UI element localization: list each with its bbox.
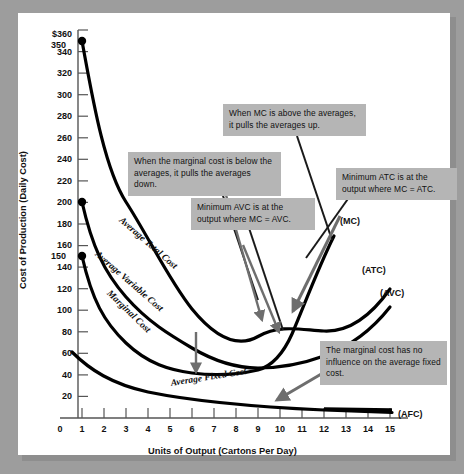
x-tick-label: 15 [380,424,400,434]
x-tick-label: 13 [336,424,356,434]
y-axis-title: Cost of Production (Daily Cost) [18,150,28,290]
y-tick-label: 340 [30,47,72,57]
y-tick-label: 240 [30,154,72,164]
callout-afc-no-influence: The marginal cost has no influence on th… [320,341,447,385]
y-tick-label: 320 [30,68,72,78]
x-tick-label: 0 [50,424,70,434]
x-tick-label: 1 [72,424,92,434]
series-tag-mc: (MC) [340,216,360,226]
y-tick-label: 200 [30,197,72,207]
x-tick-label: 11 [292,424,312,434]
x-tick-label: 14 [358,424,378,434]
y-tick-label: 300 [30,90,72,100]
y-tick-label: 20 [30,391,72,401]
x-tick-label: 2 [94,424,114,434]
y-tick-label: 180 [30,219,72,229]
x-tick-label: 7 [204,424,224,434]
series-tag-avc: (AVC) [380,288,404,298]
y-tick-label: 150 [24,251,66,261]
x-tick-label: 4 [138,424,158,434]
series-tag-atc: (ATC) [362,265,386,275]
y-tick-label: $360 [30,29,72,39]
callout-mc-below-averages: When the marginal cost is below the aver… [128,152,281,196]
x-tick-label: 5 [160,424,180,434]
y-tick-label: 260 [30,133,72,143]
y-tick-label: 280 [30,111,72,121]
x-tick-label: 10 [270,424,290,434]
y-tick-label: 220 [30,176,72,186]
y-tick-label: 160 [30,240,72,250]
series-tag-afc: (AFC) [398,409,423,419]
x-tick-label: 6 [182,424,202,434]
y-tick-label: 120 [30,284,72,294]
x-tick-label: 9 [248,424,268,434]
y-tick-label: 80 [30,327,72,337]
x-tick-label: 3 [116,424,136,434]
y-tick-label: 40 [30,370,72,380]
y-tick-marks [78,30,88,396]
callout-mc-above-averages: When MC is above the averages, it pulls … [223,104,366,136]
afc-tail-segment [324,409,392,410]
y-tick-label: 140 [30,262,72,272]
x-axis-title: Units of Output (Cartons Per Day) [148,446,297,456]
y-tick-label: 100 [30,305,72,315]
x-tick-label: 8 [226,424,246,434]
chart-page: $360 350 340 320 300 280 260 240 220 200… [0,0,464,474]
callout-minimum-atc: Minimum ATC is at the output where MC = … [336,168,457,200]
x-tick-label: 12 [314,424,334,434]
callout-minimum-avc: Minimum AVC is at the output where MC = … [191,198,315,230]
y-tick-label: 60 [30,348,72,358]
